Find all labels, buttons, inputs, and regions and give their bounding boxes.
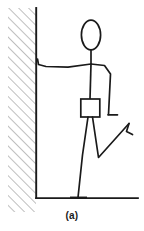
right-arm — [91, 64, 111, 115]
hatched-wall — [8, 8, 36, 212]
head — [81, 20, 100, 50]
hip-box — [81, 99, 100, 117]
figure-caption: (a) — [0, 210, 144, 222]
leaning-person-diagram — [0, 0, 144, 231]
left-arm-to-wall — [38, 59, 92, 67]
standing-leg — [78, 117, 88, 198]
wall-hatch-fill — [8, 8, 36, 212]
bent-leg — [93, 117, 130, 158]
figure-panel: (a) — [0, 0, 144, 231]
torso — [90, 64, 91, 99]
